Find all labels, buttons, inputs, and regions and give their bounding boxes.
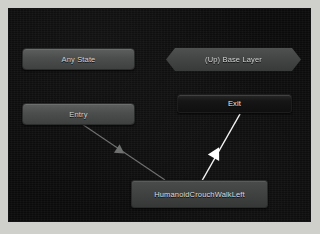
state-node-up-base-layer[interactable]: (Up) Base Layer [166, 48, 301, 71]
state-node-label: (Up) Base Layer [205, 55, 262, 64]
animator-window: Any State (Up) Base Layer Entry Exit Hum… [0, 0, 320, 234]
state-node-exit[interactable]: Exit [177, 94, 292, 113]
state-node-label: Entry [69, 110, 87, 119]
animator-graph-canvas[interactable]: Any State (Up) Base Layer Entry Exit Hum… [8, 8, 311, 222]
transition-clip-to-exit[interactable] [199, 114, 240, 186]
state-node-label: Exit [228, 99, 241, 108]
state-node-any-state[interactable]: Any State [22, 48, 135, 70]
state-node-label: HumanoidCrouchWalkLeft [154, 190, 245, 199]
state-node-entry[interactable]: Entry [22, 103, 135, 125]
transition-entry-to-clip[interactable] [76, 120, 165, 180]
state-node-label: Any State [62, 55, 96, 64]
state-node-humanoid-crouch-walk-left[interactable]: HumanoidCrouchWalkLeft [131, 180, 268, 208]
